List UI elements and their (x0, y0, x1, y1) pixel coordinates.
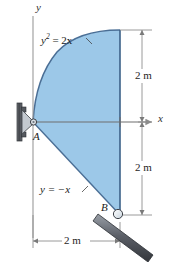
point-a-label: A (33, 131, 40, 142)
pin-center-dot (32, 121, 34, 123)
parabola-equation-label: y2 = 2x (41, 33, 72, 46)
incline-surface (93, 214, 153, 262)
figure-root: y x y2 = 2x y = −x A B 2 m 2 m 2 m (0, 0, 173, 262)
mechanics-diagram (0, 0, 173, 262)
dimension-upper-label: 2 m (135, 70, 152, 81)
roller-support (93, 209, 153, 262)
y-axis-label: y (36, 2, 41, 13)
x-axis-label: x (158, 113, 163, 124)
roller-circle-outline (113, 209, 122, 218)
point-b-label: B (101, 202, 108, 213)
line-label-leader (82, 186, 88, 192)
line-equation-label: y = −x (40, 184, 70, 195)
parabola-eq-rest: = 2x (50, 34, 73, 46)
dimension-lower-label: 2 m (135, 162, 152, 173)
dimension-horizontal-label: 2 m (64, 235, 81, 246)
